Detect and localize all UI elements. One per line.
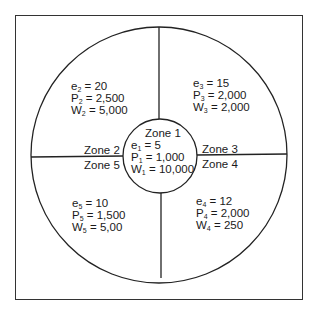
zone-4-values: e4 = 12 P4 = 2,000 W4 = 250 (196, 195, 249, 231)
zone-3-name: Zone 3 (202, 143, 238, 155)
zone-3-values: e3 = 15 P3 = 2,000 W3 = 2,000 (193, 77, 250, 113)
zone-4-name: Zone 4 (202, 158, 238, 170)
zone-5-values: e5 = 10 P5 = 1,500 W5 = 5,00 (72, 197, 125, 233)
zone-2-values: e2 = 20 P2 = 2,500 W2 = 5,000 (71, 80, 128, 116)
zone-1-name: Zone 1 (145, 127, 181, 139)
divider-left (31, 156, 123, 157)
zone-1-values: e1 = 5 P1 = 1,000 W1 = 10,000 (131, 139, 194, 175)
zone-2-name: Zone 2 (84, 144, 120, 156)
zone-5-name: Zone 5 (84, 159, 120, 171)
